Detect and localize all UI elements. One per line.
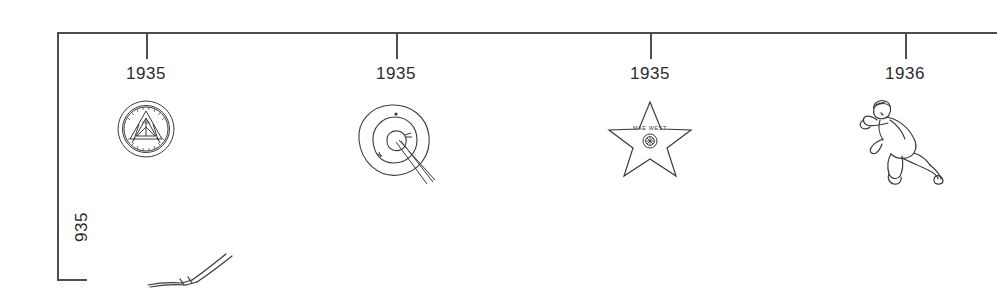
timeline-tick-1 [146, 33, 148, 59]
timeline-tick-2 [396, 33, 398, 59]
walk-of-fame-star-icon: MAE WEST [604, 96, 696, 182]
event-icon-4 [845, 96, 965, 188]
seal-center-year: 1935 [142, 120, 152, 125]
event-icon-1: 1935 [86, 96, 206, 188]
sprinting-runner-icon [850, 96, 960, 186]
event-icon-3: MAE WEST [590, 96, 710, 188]
star-name-text: MAE WEST [633, 125, 667, 131]
year-label-3: 1935 [590, 64, 710, 84]
year-label-1: 1935 [86, 64, 206, 84]
event-icon-2 [336, 96, 456, 188]
timeline-tick-4 [905, 33, 907, 59]
timeline-tick-3 [650, 33, 652, 59]
side-year-label: 935 [72, 212, 92, 242]
clipped-ski-drawing-icon [108, 252, 248, 290]
institutional-seal-icon: 1935 [115, 96, 177, 166]
timeline-axis-horizontal [57, 32, 997, 34]
year-label-4: 1936 [845, 64, 965, 84]
year-label-2: 1935 [336, 64, 456, 84]
timeline-axis-foot-tick [57, 279, 87, 281]
clipped-illustration [108, 252, 248, 290]
timeline-page: 1935 [0, 0, 997, 290]
archery-target-icon [347, 96, 445, 186]
timeline-axis-vertical [57, 32, 59, 281]
target-upper-mark [394, 112, 397, 115]
